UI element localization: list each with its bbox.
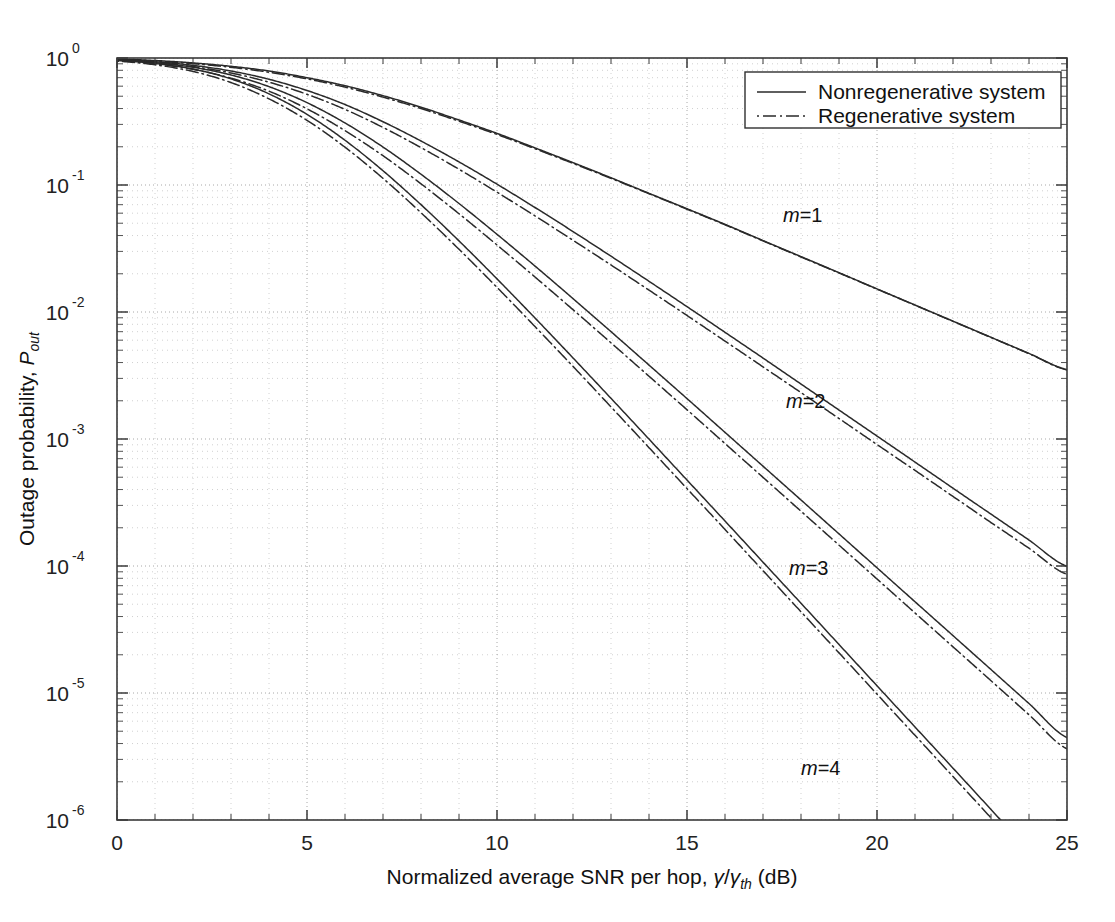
y-tick-mantissa: 10 bbox=[46, 174, 69, 197]
x-tick-label: 15 bbox=[675, 831, 698, 854]
figure-root: 0510152025 10010-110-210-310-410-510-6 m… bbox=[0, 0, 1115, 922]
y-tick-mantissa: 10 bbox=[46, 809, 69, 832]
annotation-label: m=1 bbox=[783, 204, 822, 226]
y-tick-mantissa: 10 bbox=[46, 47, 69, 70]
x-tick-label: 5 bbox=[301, 831, 313, 854]
y-tick-exponent: -4 bbox=[72, 548, 85, 564]
annotation-m-4: m=4 bbox=[801, 757, 840, 779]
legend-box[interactable]: Nonregenerative system Regenerative syst… bbox=[745, 72, 1061, 128]
legend-label-regenerative: Regenerative system bbox=[818, 104, 1015, 127]
annotation-label: m=2 bbox=[786, 390, 825, 412]
annotation-m-1: m=1 bbox=[783, 204, 822, 226]
annotation-label: m=3 bbox=[789, 557, 828, 579]
x-tick-label: 20 bbox=[865, 831, 888, 854]
x-axis-title-text: Normalized average SNR per hop, γ/γth (d… bbox=[387, 865, 798, 892]
y-tick-exponent: -1 bbox=[72, 167, 85, 183]
legend-label-nonregenerative: Nonregenerative system bbox=[818, 80, 1046, 103]
annotation-label: m=4 bbox=[801, 757, 840, 779]
x-tick-label: 10 bbox=[485, 831, 508, 854]
y-tick-exponent: -6 bbox=[72, 802, 85, 818]
y-tick-exponent: 0 bbox=[72, 40, 80, 56]
x-axis-title: Normalized average SNR per hop, γ/γth (d… bbox=[387, 865, 798, 892]
x-tick-label: 0 bbox=[111, 831, 123, 854]
y-tick-exponent: -3 bbox=[72, 421, 85, 437]
x-tick-label: 25 bbox=[1055, 831, 1078, 854]
chart-background bbox=[0, 0, 1115, 922]
annotation-m-2: m=2 bbox=[786, 390, 825, 412]
y-tick-exponent: -2 bbox=[72, 294, 85, 310]
annotation-m-3: m=3 bbox=[789, 557, 828, 579]
y-tick-mantissa: 10 bbox=[46, 682, 69, 705]
outage-probability-chart: 0510152025 10010-110-210-310-410-510-6 m… bbox=[0, 0, 1115, 922]
y-tick-exponent: -5 bbox=[72, 675, 85, 691]
y-tick-mantissa: 10 bbox=[46, 555, 69, 578]
y-tick-mantissa: 10 bbox=[46, 301, 69, 324]
y-tick-mantissa: 10 bbox=[46, 428, 69, 451]
y-axis-title: Outage probability, Pout bbox=[15, 331, 42, 546]
y-axis-title-text: Outage probability, Pout bbox=[15, 331, 42, 546]
